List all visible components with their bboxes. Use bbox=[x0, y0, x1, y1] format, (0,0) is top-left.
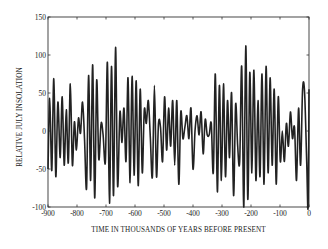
y-tick-label: 0 bbox=[42, 127, 46, 136]
x-tick-label: -200 bbox=[244, 209, 258, 218]
x-tick-label: -800 bbox=[70, 209, 84, 218]
y-tick-label: 50 bbox=[39, 89, 47, 98]
x-tick-label: -400 bbox=[186, 209, 200, 218]
x-tick-label: -100 bbox=[273, 209, 287, 218]
x-axis-title: TIME IN THOUSANDS OF YEARS BEFORE PRESEN… bbox=[91, 226, 266, 234]
y-tick-label: -50 bbox=[36, 165, 46, 174]
x-tick-label: -500 bbox=[157, 209, 171, 218]
y-axis-title: RELATIVE JULY INSOLATION bbox=[16, 66, 24, 166]
y-tick-label: 100 bbox=[35, 51, 47, 60]
insolation-chart: -900-800-700-600-500-400-300-200-1000 -1… bbox=[0, 0, 328, 249]
insolation-curve bbox=[48, 46, 309, 209]
x-tick-label: -300 bbox=[215, 209, 229, 218]
y-tick-label: 150 bbox=[35, 13, 47, 22]
x-tick-label: -600 bbox=[128, 209, 142, 218]
y-tick-label: -100 bbox=[32, 203, 46, 212]
x-tick-label: -700 bbox=[99, 209, 113, 218]
x-tick-label: 0 bbox=[307, 209, 311, 218]
